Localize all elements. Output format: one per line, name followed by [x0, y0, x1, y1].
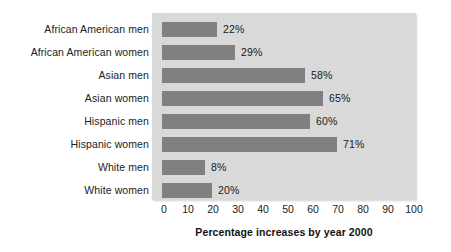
- category-label: African American women: [6, 47, 149, 58]
- category-label: White women: [6, 185, 149, 196]
- category-label: Hispanic men: [6, 116, 149, 127]
- category-label: Hispanic women: [6, 139, 149, 150]
- x-tick-label: 50: [282, 203, 294, 216]
- x-tick-label: 10: [182, 203, 194, 216]
- category-label: Asian women: [6, 93, 149, 104]
- x-axis-caption: Percentage increases by year 2000: [152, 226, 416, 239]
- x-tick-label: 20: [207, 203, 219, 216]
- x-tick-label: 60: [307, 203, 319, 216]
- bar: [162, 22, 217, 37]
- bar-value-label: 60%: [316, 115, 337, 128]
- bar: [162, 45, 235, 60]
- bar-value-label: 22%: [223, 23, 244, 36]
- category-label: Asian men: [6, 70, 149, 81]
- x-tick-label: 70: [332, 203, 344, 216]
- bar-value-label: 71%: [343, 138, 364, 151]
- bar-value-label: 29%: [241, 46, 262, 59]
- x-tick-label: 0: [161, 203, 167, 216]
- bar-value-label: 20%: [218, 184, 239, 197]
- x-tick-label: 30: [232, 203, 244, 216]
- bars-layer: 22% 29% 58% 65% 60% 71% 8% 20%: [162, 13, 416, 200]
- bar: [162, 183, 212, 198]
- bar-value-label: 65%: [329, 92, 350, 105]
- bar-chart: African American men African American wo…: [0, 0, 451, 252]
- category-label: African American men: [6, 24, 149, 35]
- category-axis-labels: African American men African American wo…: [6, 13, 149, 200]
- bar-value-label: 58%: [311, 69, 332, 82]
- category-label: White men: [6, 162, 149, 173]
- bar: [162, 91, 323, 106]
- bar: [162, 68, 305, 83]
- bar-value-label: 8%: [211, 161, 226, 174]
- bar: [162, 114, 310, 129]
- bar: [162, 160, 205, 175]
- x-tick-label: 80: [357, 203, 369, 216]
- bar: [162, 137, 337, 152]
- x-tick-label: 40: [257, 203, 269, 216]
- x-axis-tick-labels: 0 10 20 30 40 50 60 70 80 90 100: [162, 203, 416, 217]
- x-tick-label: 90: [382, 203, 394, 216]
- x-tick-label: 100: [405, 203, 423, 216]
